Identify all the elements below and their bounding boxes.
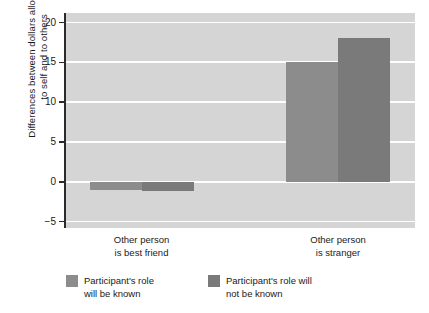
bar-group0-series1: [142, 182, 194, 192]
y-tick-label-0: 0: [10, 177, 56, 187]
gridline--5: [65, 221, 415, 223]
chart-legend: Participant's role will be known Partici…: [66, 274, 406, 308]
y-tick-mark-20: [59, 22, 65, 24]
bar-chart-figure: Differences between dollars allocated to…: [0, 0, 429, 313]
y-tick-mark-15: [59, 62, 65, 64]
legend-label-role-not-known: Participant's role will not be known: [226, 274, 312, 300]
y-tick-label--5: −5: [10, 217, 56, 227]
y-axis-spine: [64, 13, 66, 228]
legend-swatch-role-not-known: [208, 275, 220, 287]
plot-area: [65, 13, 415, 228]
legend-item-role-known: Participant's role will be known: [66, 274, 154, 300]
y-tick-label-20: 20: [10, 18, 56, 28]
bar-group1-series1: [338, 38, 390, 181]
x-axis-category-label-1: Other person is stranger: [278, 233, 398, 259]
legend-swatch-role-known: [66, 275, 78, 287]
y-tick-mark-0: [59, 181, 65, 183]
y-tick-label-15: 15: [10, 57, 56, 67]
legend-item-role-not-known: Participant's role will not be known: [208, 274, 312, 300]
x-axis-category-label-0: Other person is best friend: [82, 233, 202, 259]
y-tick-label-10: 10: [10, 97, 56, 107]
gridline-20: [65, 22, 415, 24]
legend-label-role-known: Participant's role will be known: [84, 274, 154, 300]
bar-group1-series0: [286, 62, 338, 181]
y-tick-mark-5: [59, 141, 65, 143]
y-tick-label-5: 5: [10, 137, 56, 147]
bar-group0-series0: [90, 182, 142, 190]
y-tick-mark-10: [59, 101, 65, 103]
y-tick-mark--5: [59, 221, 65, 223]
